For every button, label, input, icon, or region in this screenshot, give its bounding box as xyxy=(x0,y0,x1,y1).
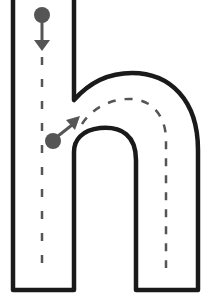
down-arrow-icon xyxy=(34,22,50,51)
letter-h-drawing xyxy=(0,0,209,301)
tracing-worksheet: h xyxy=(0,0,209,301)
stroke-2-guide xyxy=(82,99,166,268)
up-right-arrow-icon xyxy=(58,116,80,136)
start-dot-icon xyxy=(34,7,50,23)
